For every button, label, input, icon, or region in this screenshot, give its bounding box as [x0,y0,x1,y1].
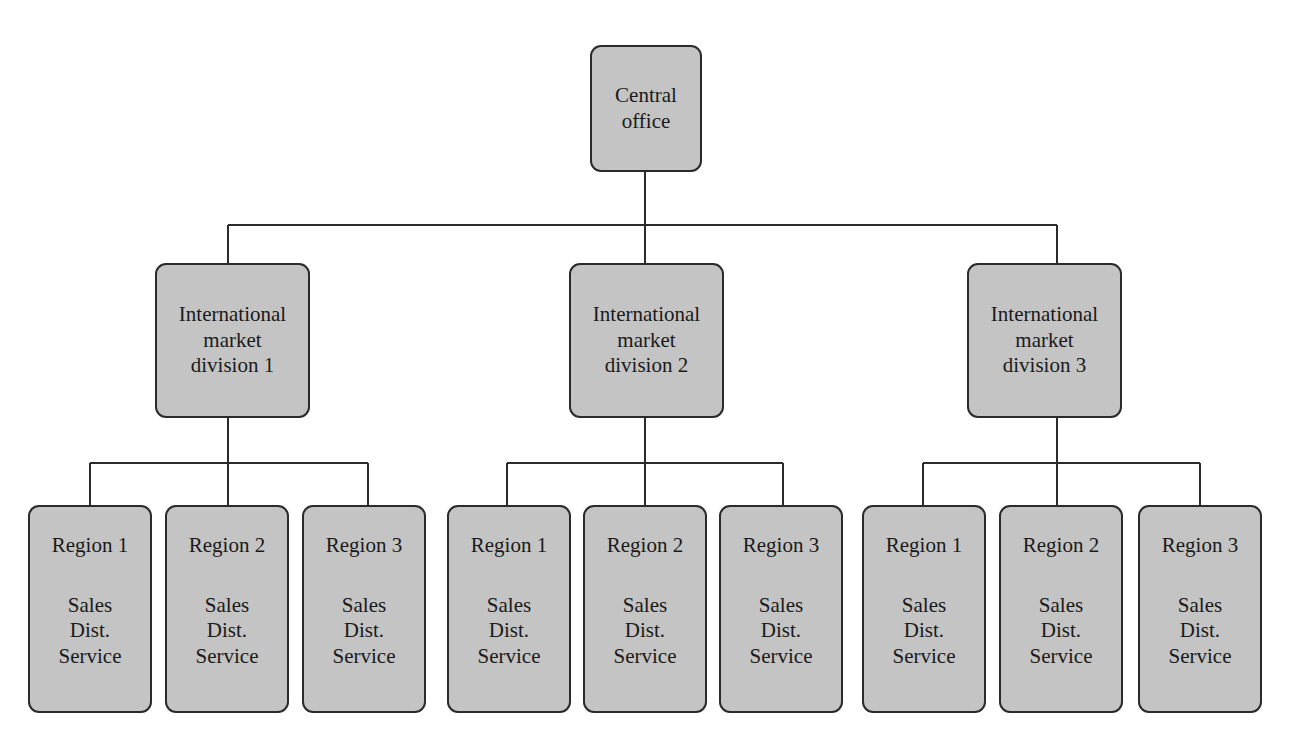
node-d3-region-2[interactable]: Region 2 Sales Dist. Service [999,505,1123,713]
function-dist: Dist. [333,618,396,644]
node-d3-region-2-functions: Sales Dist. Service [1030,593,1093,670]
node-division-1-line-1: International [179,302,286,328]
node-d1-region-1-title: Region 1 [52,533,128,559]
function-service: Service [1169,644,1232,670]
node-central-office[interactable]: Central office [590,45,702,172]
function-dist: Dist. [1030,618,1093,644]
node-division-2-line-1: International [593,302,700,328]
node-division-2[interactable]: International market division 2 [569,263,724,418]
node-d1-region-3-title: Region 3 [326,533,402,559]
function-dist: Dist. [614,618,677,644]
function-service: Service [59,644,122,670]
node-division-1-line-2: market [203,328,261,354]
function-sales: Sales [1030,593,1093,619]
node-d2-region-2[interactable]: Region 2 Sales Dist. Service [583,505,707,713]
node-division-2-line-2: market [617,328,675,354]
function-dist: Dist. [196,618,259,644]
node-d1-region-2-functions: Sales Dist. Service [196,593,259,670]
node-d1-region-3[interactable]: Region 3 Sales Dist. Service [302,505,426,713]
function-service: Service [196,644,259,670]
node-d2-region-3-functions: Sales Dist. Service [750,593,813,670]
node-d1-region-2[interactable]: Region 2 Sales Dist. Service [165,505,289,713]
function-sales: Sales [750,593,813,619]
function-sales: Sales [893,593,956,619]
node-d2-region-3[interactable]: Region 3 Sales Dist. Service [719,505,843,713]
node-d1-region-3-functions: Sales Dist. Service [333,593,396,670]
node-d2-region-2-title: Region 2 [607,533,683,559]
function-service: Service [614,644,677,670]
function-dist: Dist. [893,618,956,644]
function-sales: Sales [59,593,122,619]
function-sales: Sales [196,593,259,619]
node-d2-region-1-title: Region 1 [471,533,547,559]
function-service: Service [893,644,956,670]
function-sales: Sales [333,593,396,619]
function-service: Service [478,644,541,670]
function-dist: Dist. [1169,618,1232,644]
function-service: Service [1030,644,1093,670]
node-division-3-line-2: market [1015,328,1073,354]
figure-caption [0,742,1290,754]
function-sales: Sales [614,593,677,619]
node-division-1-line-3: division 1 [191,353,274,379]
node-d3-region-3[interactable]: Region 3 Sales Dist. Service [1138,505,1262,713]
node-division-1[interactable]: International market division 1 [155,263,310,418]
function-dist: Dist. [59,618,122,644]
function-service: Service [750,644,813,670]
node-d3-region-1-functions: Sales Dist. Service [893,593,956,670]
function-dist: Dist. [750,618,813,644]
node-division-2-line-3: division 2 [605,353,688,379]
node-central-office-line-2: office [622,109,671,135]
org-chart-canvas: Central office International market divi… [0,0,1290,754]
node-central-office-line-1: Central [615,83,677,109]
node-d2-region-2-functions: Sales Dist. Service [614,593,677,670]
node-d2-region-1[interactable]: Region 1 Sales Dist. Service [447,505,571,713]
node-d1-region-1-functions: Sales Dist. Service [59,593,122,670]
function-service: Service [333,644,396,670]
node-division-3-line-3: division 3 [1003,353,1086,379]
node-d1-region-2-title: Region 2 [189,533,265,559]
function-sales: Sales [478,593,541,619]
node-d3-region-1[interactable]: Region 1 Sales Dist. Service [862,505,986,713]
node-d3-region-2-title: Region 2 [1023,533,1099,559]
node-d3-region-3-functions: Sales Dist. Service [1169,593,1232,670]
node-d1-region-1[interactable]: Region 1 Sales Dist. Service [28,505,152,713]
node-division-3[interactable]: International market division 3 [967,263,1122,418]
node-division-3-line-1: International [991,302,1098,328]
node-d2-region-3-title: Region 3 [743,533,819,559]
function-sales: Sales [1169,593,1232,619]
node-d3-region-3-title: Region 3 [1162,533,1238,559]
node-d2-region-1-functions: Sales Dist. Service [478,593,541,670]
function-dist: Dist. [478,618,541,644]
node-d3-region-1-title: Region 1 [886,533,962,559]
